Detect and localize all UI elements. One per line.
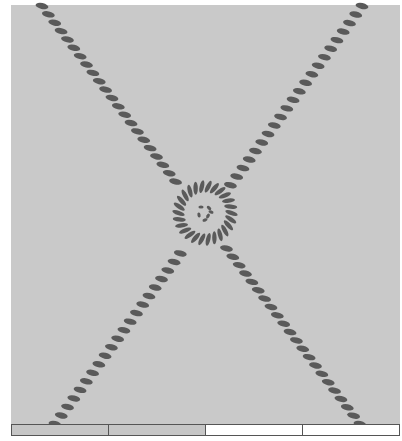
bead — [198, 180, 205, 194]
scale-segment — [206, 425, 303, 435]
bead — [355, 2, 369, 11]
bead — [48, 18, 62, 27]
bead — [136, 300, 150, 309]
bead — [156, 161, 170, 170]
bead — [98, 351, 112, 360]
bead — [143, 144, 157, 153]
bead — [80, 60, 94, 69]
bead — [92, 77, 106, 86]
bead — [315, 370, 329, 379]
bead — [92, 360, 106, 369]
bead — [124, 119, 138, 128]
bead-chain-figure — [0, 0, 402, 441]
bead — [67, 394, 81, 403]
bead — [212, 231, 217, 244]
bead — [245, 278, 259, 287]
bead — [173, 249, 187, 258]
bead — [205, 232, 212, 246]
bead — [292, 87, 306, 96]
bead — [349, 10, 363, 19]
bead — [258, 294, 272, 303]
bead — [137, 135, 151, 144]
bead — [173, 216, 186, 222]
bead — [236, 164, 250, 173]
scale-bar — [11, 424, 400, 436]
bead — [328, 386, 342, 395]
bead — [61, 403, 75, 412]
bead — [299, 78, 313, 87]
bead — [222, 198, 235, 204]
scale-segment — [12, 425, 109, 435]
bead — [73, 386, 87, 395]
scale-segment — [303, 425, 399, 435]
bead — [86, 69, 100, 78]
bead — [175, 222, 188, 228]
bead — [123, 317, 137, 326]
bead — [330, 36, 344, 45]
bead — [162, 169, 176, 178]
bead — [111, 334, 125, 343]
bead — [261, 130, 275, 139]
bead — [118, 110, 132, 119]
bead — [255, 138, 269, 147]
bead — [267, 121, 281, 130]
bead — [86, 369, 100, 378]
bead — [347, 411, 361, 420]
bead — [54, 411, 68, 420]
bead — [308, 361, 322, 370]
bead — [79, 377, 93, 386]
bead — [193, 182, 198, 195]
bead — [340, 403, 354, 412]
bead — [286, 96, 300, 105]
scale-segment — [109, 425, 206, 435]
bead — [230, 172, 244, 181]
bead — [336, 27, 350, 36]
bead — [324, 44, 338, 53]
bead — [311, 61, 325, 70]
bead — [264, 303, 278, 312]
bead — [224, 204, 237, 210]
bead — [104, 343, 118, 352]
bead — [142, 292, 156, 301]
bead — [149, 152, 163, 161]
bead — [169, 177, 183, 186]
bead — [219, 244, 233, 253]
bead — [296, 344, 310, 353]
bead — [289, 336, 303, 345]
bead — [99, 85, 113, 94]
bead — [117, 326, 131, 335]
bead — [206, 205, 212, 211]
bead — [305, 70, 319, 79]
bead — [317, 53, 331, 62]
bead — [205, 213, 210, 219]
bead — [130, 127, 144, 136]
bead — [249, 147, 263, 156]
bead — [41, 10, 55, 19]
bead — [223, 181, 237, 190]
bead — [197, 212, 201, 218]
bead — [270, 311, 284, 320]
bead — [67, 44, 81, 53]
bead — [161, 266, 175, 275]
bead — [148, 283, 162, 292]
bead — [302, 353, 316, 362]
bead — [251, 286, 265, 295]
bead — [334, 395, 348, 404]
bead — [60, 35, 74, 44]
bead — [283, 328, 297, 337]
bead — [54, 27, 68, 36]
bead — [35, 2, 49, 11]
bead — [280, 104, 294, 113]
bead — [167, 258, 181, 267]
bead — [274, 113, 288, 122]
bead — [277, 319, 291, 328]
bead — [342, 19, 356, 28]
bead — [239, 269, 253, 278]
bead — [232, 261, 246, 270]
bead — [129, 309, 143, 318]
bead — [242, 155, 256, 164]
bead — [105, 94, 119, 103]
bead — [321, 378, 335, 387]
bead — [73, 52, 87, 61]
bead — [198, 205, 203, 208]
